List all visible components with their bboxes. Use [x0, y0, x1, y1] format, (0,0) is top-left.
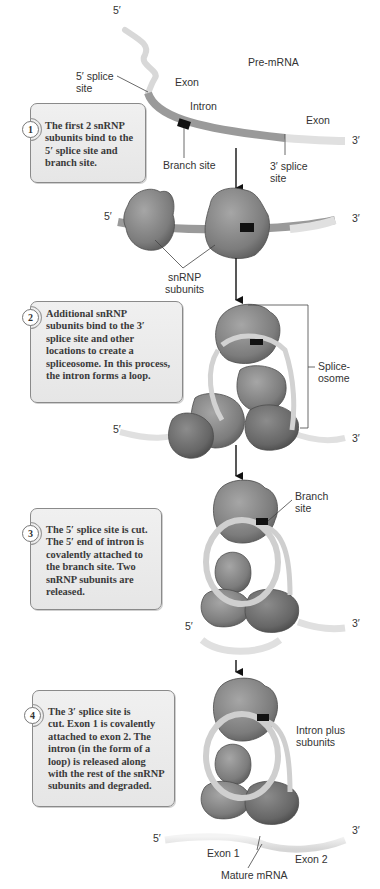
spliceosome-label: Splice- osome	[318, 360, 350, 384]
five-splice-site-label: 5′ splice site	[76, 70, 114, 94]
exon1-label: Exon 1	[207, 847, 240, 859]
three-prime-label-4: 3′	[352, 617, 360, 629]
spliceosome-step3	[201, 480, 299, 632]
step-2-badge: 2	[22, 309, 39, 326]
three-prime-label-3: 3′	[352, 432, 360, 444]
three-splice-site-label: 3′ splice site	[270, 160, 308, 184]
step-3-badge: 3	[22, 525, 39, 542]
snrnp-subunit-left	[124, 189, 175, 250]
five-prime-label-5: 5′	[153, 832, 161, 844]
intron-lariat-complex	[201, 678, 299, 824]
branch-site-label: Branch site	[163, 159, 216, 171]
step-4-badge: 4	[24, 707, 41, 724]
spliceosome-complex	[169, 304, 299, 458]
five-prime-label-4: 5′	[185, 620, 193, 632]
exon-right-label: Exon	[306, 114, 330, 126]
three-prime-label-2: 3′	[352, 212, 360, 224]
intron-plus-subunits-label: Intron plus subunits	[296, 724, 345, 748]
exon2-label: Exon 2	[295, 853, 328, 865]
exon-left-label: Exon	[175, 76, 199, 88]
five-prime-label-2: 5′	[104, 210, 112, 222]
step-1-text: The first 2 snRNP subunits bind to the 5…	[45, 120, 133, 170]
step-4-text: The 3′ splice site is cut. Exon 1 is cov…	[48, 706, 165, 793]
step-2-text: Additional snRNP subunits bind to the 3′…	[46, 308, 170, 382]
snrnp-subunits-label: snRNP subunits	[165, 271, 204, 295]
intron-label: Intron	[190, 100, 217, 112]
pre-mrna-label: Pre-mRNA	[248, 56, 299, 68]
three-prime-label-5: 3′	[352, 824, 360, 836]
five-prime-label-1: 5′	[113, 4, 121, 16]
branch-site-label-3: Branch site	[295, 490, 328, 514]
step-1-badge: 1	[22, 121, 39, 138]
three-prime-label-1: 3′	[352, 134, 360, 146]
five-prime-label-3: 5′	[113, 423, 121, 435]
mature-mrna-label: Mature mRNA	[221, 869, 288, 881]
step-3-text: The 5′ splice site is cut. The 5′ end of…	[46, 524, 148, 598]
snrnp-subunit-right	[205, 188, 269, 258]
